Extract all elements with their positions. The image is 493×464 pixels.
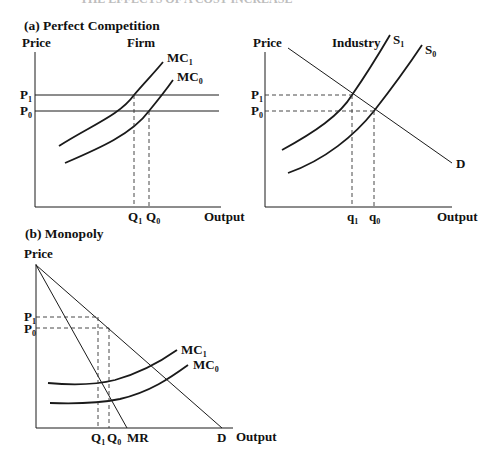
industry-p0-label: P0 — [251, 103, 263, 120]
economics-diagram: (a) Perfect Competition Price Firm P1 P0… — [0, 0, 493, 464]
monopoly-chart: Price P1 P0 Q1 Q0 MR D Output MC1 MC0 — [24, 246, 277, 447]
industry-s0-curve — [288, 45, 422, 173]
industry-s0-label: S0 — [425, 42, 436, 59]
firm-title: Firm — [127, 35, 155, 50]
monopoly-mc1-curve — [48, 350, 177, 384]
monopoly-d-label: D — [217, 430, 226, 445]
monopoly-x-axis-label: Output — [236, 429, 277, 444]
industry-p1-label: P1 — [251, 87, 263, 104]
monopoly-q1-label: Q1 — [91, 430, 105, 447]
monopoly-mc0-label: MC0 — [193, 357, 219, 374]
industry-title: Industry — [332, 35, 381, 50]
monopoly-y-axis-label: Price — [24, 246, 53, 261]
panel-a-title: (a) Perfect Competition — [24, 18, 160, 33]
firm-p0-label: P0 — [20, 103, 32, 120]
industry-d-label: D — [456, 156, 465, 171]
firm-q1-label: Q1 — [128, 209, 142, 226]
industry-demand-curve — [288, 48, 452, 163]
firm-chart: Price Firm P1 P0 Q1 Q0 Output MC1 MC0 — [20, 35, 245, 226]
industry-chart: Price Industry P1 P0 q1 q0 Output S1 S0 … — [251, 32, 478, 226]
industry-x-axis-label: Output — [437, 209, 478, 224]
industry-q1-label: q1 — [347, 209, 358, 226]
monopoly-mr-label: MR — [127, 430, 149, 445]
firm-mc1-curve — [59, 62, 163, 146]
monopoly-q0-label: Q0 — [107, 430, 121, 447]
firm-x-axis-label: Output — [204, 209, 245, 224]
firm-p1-label: P1 — [20, 87, 32, 104]
panel-b-title: (b) Monopoly — [25, 226, 104, 241]
firm-y-axis-label: Price — [22, 35, 51, 50]
firm-mc1-label: MC1 — [167, 50, 193, 67]
firm-mc0-label: MC0 — [177, 69, 203, 86]
industry-q0-label: q0 — [369, 209, 380, 226]
industry-y-axis-label: Price — [253, 35, 282, 50]
firm-mc0-curve — [65, 80, 173, 163]
industry-s1-label: S1 — [393, 32, 404, 49]
firm-q0-label: Q0 — [146, 209, 160, 226]
